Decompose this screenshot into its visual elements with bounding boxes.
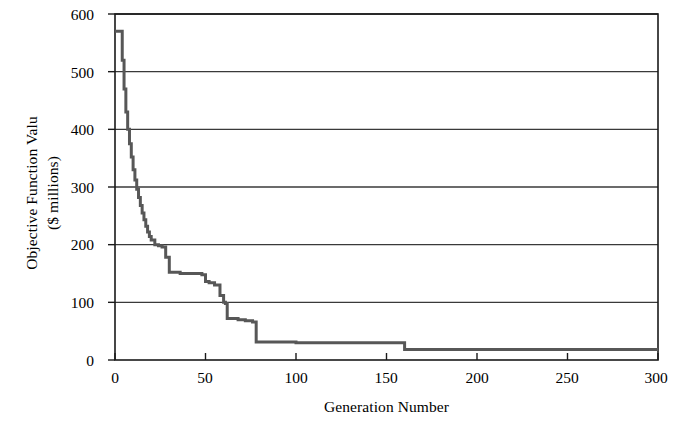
y-axis-tick-marks [108,14,115,360]
plot-area [0,0,676,439]
convergence-chart: Objective Function Valu ($ millions) 600… [0,0,676,439]
